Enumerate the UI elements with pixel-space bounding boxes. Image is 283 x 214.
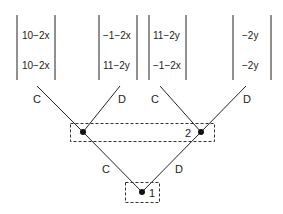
edge-right-C [160,86,201,132]
payoff-column-2: −1−2x 11−2y [99,15,137,80]
edge-right-D [201,86,246,132]
payoff-2-player2: 11−2y [103,60,130,71]
decision-node-left [80,129,86,135]
edge-left-D [83,86,120,132]
game-tree-diagram: 10−2x 10−2x −1−2x 11−2y 11−2y −1−2x −2y … [0,0,283,214]
branch-label-root-D: D [175,163,183,175]
payoff-3-player1: 11−2y [153,30,180,41]
payoff-1-player1: 10−2x [22,30,50,41]
payoff-column-4: −2y −2y [233,15,271,80]
branch-label-left-D: D [118,93,126,105]
branch-label-right-C: C [151,93,159,105]
payoff-4-player2: −2y [242,60,258,71]
information-set-2-label: 2 [185,127,191,139]
edge-left-C [37,86,83,132]
payoff-2-player1: −1−2x [103,30,131,41]
information-set-1-label: 1 [149,187,155,199]
payoff-4-player1: −2y [242,30,258,41]
information-set-2-box [71,124,215,142]
payoff-3-player2: −1−2x [153,60,181,71]
branch-label-root-C: C [102,163,110,175]
decision-node-root [139,189,145,195]
payoff-1-player2: 10−2x [22,60,50,71]
decision-node-right [198,129,204,135]
payoff-column-1: 10−2x 10−2x [17,15,55,80]
payoff-column-3: 11−2y −1−2x [149,15,186,80]
branch-label-right-D: D [243,93,251,105]
branch-label-left-C: C [33,93,41,105]
